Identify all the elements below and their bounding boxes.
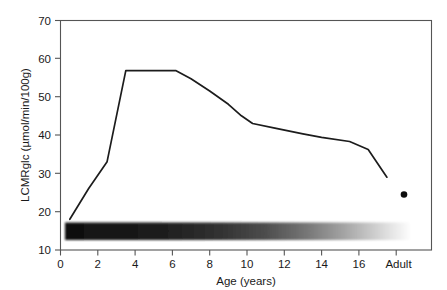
chart-figure: 10 20 30 40 50 60 70 LCMRglc (µmol/min/1… [0,0,447,290]
chart-background [0,0,447,290]
y-tick-label: 60 [38,53,51,65]
y-tick-label: 50 [38,91,51,103]
y-tick-label: 20 [38,206,51,218]
x-tick-label: 2 [95,258,101,270]
lcmrglc-vs-age-line-chart: 10 20 30 40 50 60 70 LCMRglc (µmol/min/1… [0,0,447,290]
x-tick-label: 16 [353,258,366,270]
x-tick-label-adult: Adult [385,258,412,270]
x-tick-label: 14 [315,258,328,270]
x-tick-label: 8 [206,258,212,270]
x-tick-label: 0 [57,258,63,270]
y-tick-label: 10 [38,244,51,256]
grayscale-gradient-bar [65,223,410,241]
x-axis-title: Age (years) [216,275,276,287]
y-axis-title: LCMRglc (µmol/min/100g) [19,68,31,202]
x-tick-label: 10 [241,258,254,270]
y-tick-label: 70 [38,15,51,27]
y-tick-label: 30 [38,168,51,180]
adult-data-point [401,191,408,198]
x-tick-label: 6 [169,258,175,270]
y-tick-label: 40 [38,129,51,141]
x-tick-label: 12 [278,258,291,270]
x-tick-label: 4 [132,258,139,270]
